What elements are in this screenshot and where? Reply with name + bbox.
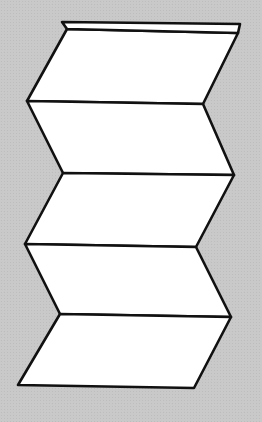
fold-panel-5 (18, 314, 231, 388)
fold-panel-4 (25, 244, 231, 317)
fold-panel-1 (27, 29, 238, 104)
fold-panels (18, 29, 238, 388)
fold-panel-3 (25, 173, 234, 247)
accordion-fold-diagram (0, 0, 262, 422)
fold-panel-2 (27, 101, 234, 175)
